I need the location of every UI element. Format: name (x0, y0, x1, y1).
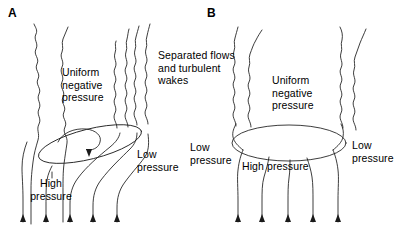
panel-b-letter: B (207, 6, 216, 20)
panel-a-turbulent-line-right-4 (145, 24, 150, 124)
panel-b-uniform-negative-pressure-label: Uniform negative pressure (272, 74, 314, 112)
panel-b-body-ellipse (232, 125, 346, 161)
panel-b-high-pressure-label: High pressure (242, 160, 309, 173)
panel-a-turbulent-line-right-1 (114, 41, 117, 128)
panel-b-sheath-left (233, 124, 243, 150)
panel-a-letter: A (8, 6, 17, 20)
panel-b-streamline-5 (333, 150, 338, 222)
panel-b-inlet-arrows (235, 214, 341, 222)
panel-a-separated-flows-label: Separated flows and turbulent wakes (158, 49, 235, 87)
panel-b-turbulent-line-left-2 (248, 30, 262, 127)
panel-b-turbulent-line-right-2 (353, 29, 366, 130)
panel-b-sheath-right (333, 124, 343, 150)
panel-a-streamline-4 (93, 133, 137, 222)
panel-a-uniform-negative-pressure-label: Uniform negative pressure (62, 66, 104, 104)
panel-a-low-pressure-label: Low pressure (137, 148, 179, 173)
panel-a-inlet-arrows (20, 214, 120, 222)
panel-a-body-ellipse (35, 117, 145, 172)
flow-diagram-svg (0, 0, 397, 243)
panel-b-low-pressure-left-label: Low pressure (190, 141, 232, 166)
panel-a-turbulent-line-right-2 (125, 29, 129, 127)
panel-a-high-pressure-label: High pressure (20, 177, 82, 202)
figure-container: A Uniform negative pressure Separated fl… (0, 0, 397, 243)
panel-a-turbulent-line-right-3 (134, 26, 139, 125)
panel-b-turbulent-line-right-1 (340, 27, 343, 128)
panel-b-low-pressure-right-label: Low pressure (352, 139, 394, 164)
